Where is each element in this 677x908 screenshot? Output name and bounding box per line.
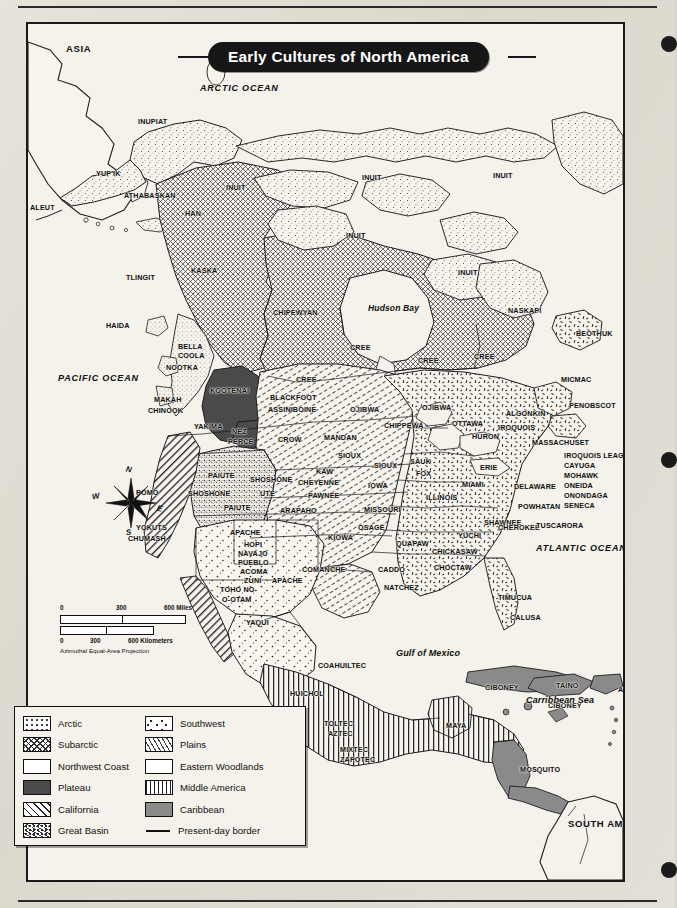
culture-label-quapaw: QUAPAW — [396, 540, 429, 548]
culture-label-makah: MAKAH — [154, 396, 182, 404]
legend-swatch-middle-america — [145, 780, 173, 795]
culture-label-cree: CREE — [296, 376, 317, 384]
culture-label-acoma: ACOMA — [240, 568, 268, 576]
culture-label-chipewyan: CHIPEWYAN — [273, 309, 318, 317]
culture-label-o-otam: O-OTAM — [222, 596, 252, 604]
legend-label-great-basin: Great Basin — [58, 825, 109, 836]
title-leader-line — [178, 56, 210, 58]
culture-label-iowa: IOWA — [368, 482, 388, 490]
culture-label-shoshone: SHOSHONE — [188, 490, 230, 498]
culture-label-inuit: INUIT — [362, 174, 382, 182]
legend-swatch-plains — [145, 737, 173, 752]
culture-label-cayuga: CAYUGA — [564, 462, 595, 470]
legend-item-northwest-coast: Northwest Coast — [23, 756, 145, 776]
culture-label-coola: COOLA — [178, 352, 205, 360]
legend-label-eastern-woodlands: Eastern Woodlands — [180, 761, 264, 772]
culture-label-inupiat: INUPIAT — [138, 118, 167, 126]
culture-label-onondaga: ONONDAGA — [564, 492, 608, 500]
culture-label-yaqui: YAQUI — [246, 619, 269, 627]
culture-label-huron: HURON — [472, 433, 499, 441]
culture-label-huichol: HUICHOL — [290, 690, 324, 698]
culture-label-apache: APACHE — [272, 577, 303, 585]
legend-item-california: California — [23, 799, 145, 819]
scale-miles-numbers: 0 300 600 Miles — [60, 604, 210, 613]
legend-label-plains: Plains — [180, 739, 206, 750]
culture-label-erie: ERIE — [480, 464, 497, 472]
scale-bar: 0 300 600 Miles 0 300 600 Kilometers Azi… — [60, 604, 210, 654]
culture-label-kaw: KAW — [316, 468, 333, 476]
culture-label-bella: BELLA — [178, 343, 203, 351]
ocean-label-atlantic-ocean: ATLANTIC OCEAN — [536, 544, 625, 553]
culture-label-pawnee: PAWNEE — [308, 492, 340, 500]
scale-miles-mid: 300 — [116, 604, 127, 611]
legend-swatch-caribbean — [145, 802, 173, 817]
legend-swatch-eastern-woodlands — [145, 759, 173, 774]
culture-label-pueblo: PUEBLO — [238, 559, 269, 567]
culture-label-natchez: NATCHEZ — [384, 584, 419, 592]
scale-km-zero: 0 — [60, 637, 64, 644]
scale-km-max: 600 Kilometers — [128, 637, 173, 644]
culture-label-massachuset: MASSACHUSET — [532, 439, 589, 447]
culture-label-ute: UTE — [260, 490, 275, 498]
culture-label-inuit: INUIT — [458, 269, 478, 277]
legend-swatch-plateau — [23, 780, 51, 795]
water-label-hudson-bay: Hudson Bay — [368, 304, 419, 313]
legend-item-middle-america: Middle America — [145, 778, 297, 798]
culture-label-mohawk: MOHAWK — [564, 472, 598, 480]
scale-km-mid: 300 — [90, 637, 101, 644]
culture-label-paiute: PAIUTE — [208, 472, 235, 480]
culture-label-mixtec: MIXTEC — [340, 746, 368, 754]
compass-rose: N S E W — [100, 472, 162, 534]
culture-label-zuni: ZUNI — [244, 577, 261, 585]
legend-swatch-northwest-coast — [23, 759, 51, 774]
legend-item-eastern-woodlands: Eastern Woodlands — [145, 756, 297, 776]
culture-label-aleut: ALEUT — [30, 204, 55, 212]
culture-label-yakima: YAKIMA — [194, 423, 223, 431]
culture-label-aztec: AZTEC — [328, 730, 353, 738]
culture-label-inuit: INUIT — [346, 232, 366, 240]
culture-label-toltec: TOLTEC — [324, 720, 353, 728]
water-label-carribbean-sea: Carribbean Sea — [526, 696, 594, 705]
culture-label-cheyenne: CHEYENNE — [298, 479, 339, 487]
legend-item-plateau: Plateau — [23, 778, 145, 798]
culture-label-tlingit: TLINGIT — [126, 274, 155, 282]
legend-swatch-southwest — [145, 716, 173, 731]
culture-label-yuchi: YUCHI — [458, 532, 481, 540]
culture-label-coahuiltec: COAHUILTEC — [318, 662, 366, 670]
culture-label-naskapi: NASKAPI — [508, 307, 541, 315]
culture-label-cree: CREE — [350, 344, 371, 352]
culture-label-blackfoot: BLACKFOOT — [270, 394, 316, 402]
culture-label-taino: TAINO — [556, 682, 579, 690]
continent-label-south-america: SOUTH AMERICA — [568, 819, 625, 829]
legend-swatch-subarctic — [23, 737, 51, 752]
page-edge-mark-top — [661, 36, 677, 52]
legend-item-arctic: Arctic — [23, 713, 145, 733]
legend-column-right: SouthwestPlainsEastern WoodlandsMiddle A… — [145, 713, 297, 841]
culture-label-apache: APACHE — [230, 529, 261, 537]
culture-label-mandan: MANDAN — [324, 434, 357, 442]
culture-label-arawak: ARAWAK — [618, 686, 625, 694]
legend-swatch-great-basin — [23, 823, 51, 838]
legend-label-northwest-coast: Northwest Coast — [58, 761, 129, 772]
scale-miles-zero: 0 — [60, 604, 64, 611]
ocean-label-arctic-ocean: ARCTIC OCEAN — [200, 84, 279, 93]
culture-label-penobscot: PENOBSCOT — [569, 402, 616, 410]
culture-label-algonkin: ALGONKIN — [506, 410, 546, 418]
culture-label-kootenai: KOOTENAI — [210, 387, 249, 395]
culture-label-choctaw: CHOCTAW — [434, 564, 472, 572]
legend-label-subarctic: Subarctic — [58, 739, 98, 750]
culture-label-missouri: MISSOURI — [364, 506, 401, 514]
culture-label-crow: CROW — [278, 436, 301, 444]
legend-swatch-california — [23, 802, 51, 817]
culture-label-tuscarora: TUSCARORA — [536, 522, 583, 530]
culture-label-fox: FOX — [416, 470, 431, 478]
page-rule-bottom — [18, 900, 657, 902]
culture-label-haida: HAIDA — [106, 322, 130, 330]
culture-label-osage: OSAGE — [358, 524, 385, 532]
compass-north-label: N — [125, 465, 132, 475]
culture-label-athabaskan: ATHABASKAN — [124, 192, 176, 200]
culture-label-paiute: PAIUTE — [224, 504, 251, 512]
legend-item-present-day-border: Present-day border — [145, 821, 297, 841]
legend-item-great-basin: Great Basin — [23, 821, 145, 841]
culture-label-delaware: DELAWARE — [514, 483, 556, 491]
